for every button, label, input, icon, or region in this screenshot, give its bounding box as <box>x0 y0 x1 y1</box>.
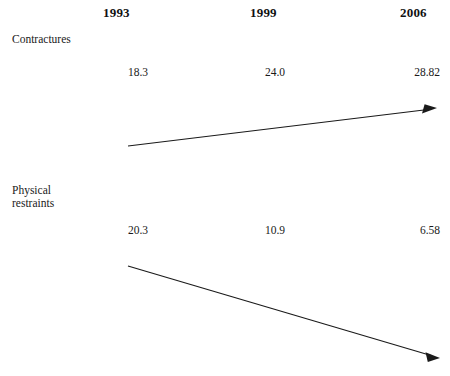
column-header-year-2006: 2006 <box>400 5 427 21</box>
value-physical-restraints-2006: 6.58 <box>388 224 440 236</box>
series-label-physical-restraints: Physical restraints <box>12 184 54 210</box>
physical-restraints-trend-arrow <box>128 266 440 362</box>
contractures-arrow-head <box>422 104 437 113</box>
contractures-arrow-shaft <box>128 110 428 147</box>
trend-arrow-layer <box>0 0 450 376</box>
contractures-trend-arrow <box>128 104 437 146</box>
column-header-year-1999: 1999 <box>250 5 277 21</box>
value-contractures-1999: 24.0 <box>233 66 285 78</box>
column-header-year-1993: 1993 <box>103 5 130 21</box>
physical-restraints-arrow-head <box>426 352 441 362</box>
value-physical-restraints-1999: 10.9 <box>233 224 285 236</box>
value-contractures-1993: 18.3 <box>96 66 148 78</box>
series-label-contractures: Contractures <box>12 33 71 46</box>
trend-figure: 1993 1999 2006 Contractures 18.3 24.0 28… <box>0 0 450 376</box>
physical-restraints-arrow-shaft <box>128 266 431 356</box>
value-contractures-2006: 28.82 <box>388 66 440 78</box>
value-physical-restraints-1993: 20.3 <box>96 224 148 236</box>
